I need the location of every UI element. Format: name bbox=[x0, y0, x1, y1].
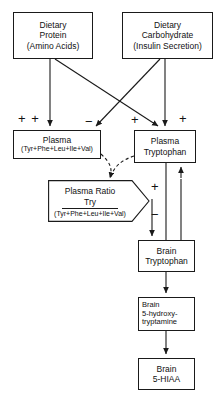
node-line: Tryptophan bbox=[145, 256, 188, 266]
node-line: tryptamine bbox=[142, 318, 177, 327]
sign-plus-plasma-tryptophan-right: + bbox=[179, 112, 187, 125]
node-line: Dietary bbox=[154, 20, 181, 30]
edge-plasma-tryptophan-to-ratio bbox=[111, 156, 134, 177]
sign-minus-plasma-laa: − bbox=[85, 115, 93, 128]
sign-plus-plus-plasma-laa: + + bbox=[18, 112, 40, 125]
ratio-numerator: Try bbox=[62, 197, 118, 209]
node-line: Plasma bbox=[43, 135, 71, 145]
node-plasma-ratio: Plasma Ratio Try (Tyr+Phe+Leu+Ile+Val) bbox=[48, 180, 150, 222]
node-brain-tryptophan: Brain Tryptophan bbox=[138, 240, 195, 272]
edge-protein-to-plasma-tryptophan bbox=[55, 59, 158, 126]
node-line: Protein bbox=[40, 30, 67, 40]
node-line: Brain bbox=[157, 246, 177, 256]
node-dietary-protein: Dietary Protein (Amino Acids) bbox=[13, 12, 93, 59]
node-line: Tryptophan bbox=[144, 147, 187, 157]
node-plasma-large-neutral-amino-acids: Plasma (Tyr+Phe+Leu+Ile+Val) bbox=[13, 130, 101, 159]
node-line: Plasma Ratio bbox=[65, 186, 116, 196]
ratio-denominator: (Tyr+Phe+Leu+Ile+Val) bbox=[54, 210, 126, 217]
node-line: 5-HIAA bbox=[153, 374, 180, 384]
node-line: Dietary bbox=[40, 20, 67, 30]
node-brain-5-hydroxytryptamine: Brain 5-hydroxy- tryptamine bbox=[138, 297, 195, 331]
node-line: (Insulin Secretion) bbox=[133, 41, 202, 51]
node-line: Plasma bbox=[151, 136, 179, 146]
node-plasma-tryptophan: Plasma Tryptophan bbox=[134, 130, 196, 163]
edge-plasma-laa-to-ratio bbox=[101, 154, 111, 178]
sign-plus-plasma-tryptophan-left: + bbox=[131, 113, 139, 126]
sign-minus-ratio-output: − bbox=[151, 208, 159, 221]
node-line: Carbohydrate bbox=[142, 30, 194, 40]
node-line: Brain bbox=[157, 364, 177, 374]
node-plasma-ratio-text: Plasma Ratio Try (Tyr+Phe+Leu+Ile+Val) bbox=[48, 180, 132, 222]
node-brain-5-hiaa: Brain 5-HIAA bbox=[138, 358, 195, 390]
node-line: (Amino Acids) bbox=[27, 41, 79, 51]
diagram-canvas: Dietary Protein (Amino Acids) Dietary Ca… bbox=[0, 0, 219, 401]
sign-plus-ratio-output: + bbox=[151, 180, 159, 193]
node-dietary-carbohydrate: Dietary Carbohydrate (Insulin Secretion) bbox=[122, 12, 213, 59]
node-line: (Tyr+Phe+Leu+Ile+Val) bbox=[21, 145, 93, 153]
